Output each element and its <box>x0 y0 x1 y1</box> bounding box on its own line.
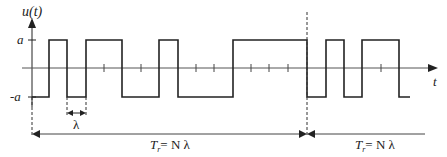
period-1-label: Tr= N λ <box>150 137 191 154</box>
lambda-label: λ <box>73 117 80 132</box>
x-axis <box>22 64 438 72</box>
y-axis-label: u(t) <box>22 4 43 20</box>
arrow-right-icon <box>299 130 307 138</box>
y-axis <box>28 18 36 107</box>
period-2-label: Tr= N λ <box>355 137 396 154</box>
level-low-label: -a <box>10 89 21 104</box>
y-axis-arrow-icon <box>28 18 36 28</box>
level-high-label: a <box>17 32 24 47</box>
arrow-right-icon <box>80 110 86 116</box>
svg-text:Tr= N λ: Tr= N λ <box>150 137 191 154</box>
x-axis-arrow-icon <box>428 64 438 72</box>
waveform-diagram: u(t) t a -a λ Tr= N λ Tr= N λ <box>0 0 447 157</box>
arrow-left-icon <box>307 130 315 138</box>
svg-text:Tr= N λ: Tr= N λ <box>355 137 396 154</box>
arrow-left-icon <box>32 130 40 138</box>
lambda-dimension <box>67 110 86 116</box>
x-axis-label: t <box>433 74 437 89</box>
arrow-left-icon <box>67 110 73 116</box>
